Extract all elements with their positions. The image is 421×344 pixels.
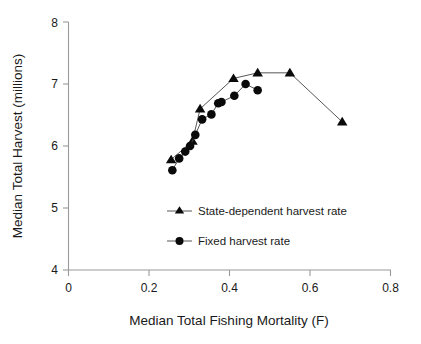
circle-marker-icon [175, 154, 184, 163]
x-tick-label-2: 0.4 [221, 281, 238, 295]
y-tick-label-2: 6 [51, 139, 58, 153]
y-tick-label-4: 8 [51, 16, 58, 30]
circle-marker-icon [253, 86, 262, 95]
chart-background [0, 0, 421, 344]
x-tick-label-3: 0.6 [302, 281, 319, 295]
circle-marker-icon [176, 237, 184, 245]
y-tick-label-1: 5 [51, 201, 58, 215]
circle-marker-icon [186, 142, 195, 151]
x-tick-label-1: 0.2 [141, 281, 158, 295]
circle-marker-icon [217, 98, 226, 107]
circle-marker-icon [230, 91, 239, 100]
circle-marker-icon [241, 80, 250, 89]
x-axis-title: Median Total Fishing Mortality (F) [129, 313, 328, 328]
circle-marker-icon [207, 110, 216, 119]
x-tick-label-0: 0 [65, 281, 72, 295]
y-tick-label-3: 7 [51, 77, 58, 91]
circle-marker-icon [168, 166, 177, 175]
circle-marker-icon [198, 115, 207, 124]
legend-label-state-dependent: State-dependent harvest rate [198, 205, 347, 217]
legend-label-fixed: Fixed harvest rate [198, 235, 290, 247]
y-tick-label-0: 4 [51, 263, 58, 277]
x-tick-label-4: 0.8 [382, 281, 399, 295]
y-axis-title: Median Total Harvest (millions) [10, 54, 25, 238]
scatter-line-chart: 4 5 6 7 8 0 0.2 0.4 0.6 0.8 Median Total… [0, 0, 421, 344]
circle-marker-icon [191, 131, 200, 140]
